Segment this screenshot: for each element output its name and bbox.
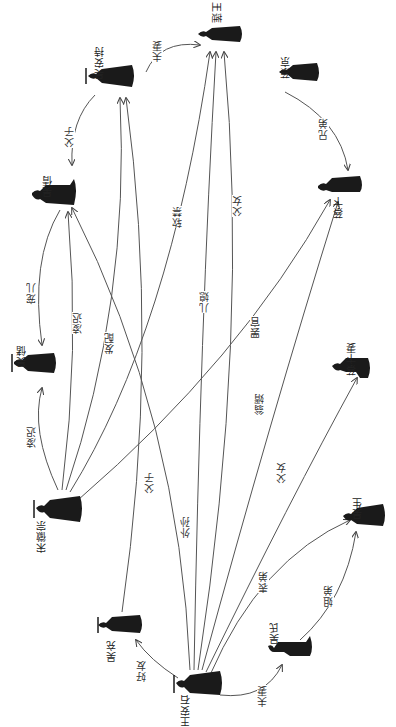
edge-label-fapei: 发配 (104, 332, 115, 354)
node-label-songhuizong: 宋徽宗 (36, 520, 47, 553)
edge-label-lingchi-1: 凌迟 (26, 426, 37, 448)
figure-wuchong (98, 615, 142, 633)
node-label-wuchong: 吴充 (106, 640, 117, 662)
edge-wuchong-wuanchi (122, 98, 142, 612)
edge-label-funv-bottom: 父女 (276, 462, 287, 484)
edge-label-chonger: 宠儿 (26, 282, 37, 304)
edge-songhuizong-wuxiu (62, 212, 73, 490)
figure-songhuizong (34, 496, 82, 522)
edge-wanganshi-wushi (220, 665, 282, 696)
edge-label-baguan: 罢官 (250, 316, 261, 338)
node-label-wushi: 吴氏 (269, 622, 280, 644)
edge-label-fuzi-top: 父子 (64, 126, 75, 148)
edge-songhuizong-wuanchi (66, 98, 121, 490)
edge-label-funv-top: 父女 (232, 195, 243, 217)
node-label-caibianqi: 蔡卞妻 (346, 342, 357, 375)
figure-caibian (318, 176, 362, 192)
node-label-wushu: 吴储 (16, 345, 27, 367)
edge-label-biaodi: 表弟 (258, 571, 269, 593)
figure-wuxiu (32, 179, 76, 205)
figure-wanglian (198, 26, 242, 42)
edge-label-jiedi: 姐弟 (323, 585, 334, 607)
edge-label-fuqi-bottom: 夫妻 (257, 685, 268, 707)
edge-label-haoyou: 好友 (136, 660, 147, 682)
node-label-wuxiu: 吴倩 (42, 175, 53, 197)
edge-wuanchi-wuxiu (72, 95, 95, 165)
node-label-wanganshi: 王安石 (180, 694, 191, 727)
edge-label-fuzi-bottom: 父子 (144, 472, 155, 494)
edge-label-lingchi-2: 凌迟 (72, 312, 83, 334)
edge-songhuizong-caibian (78, 200, 330, 500)
edge-label-wengxu: 翁婿 (254, 393, 265, 415)
edge-wanganshi-wuxiu (72, 208, 190, 670)
edge-label-ruanjin: 软禁 (172, 206, 183, 228)
edge-wanganshi-wanglian-erxi (194, 52, 216, 670)
edge-caijing-caibian (285, 92, 348, 170)
edge-label-erxi: 儿媳 (199, 291, 210, 313)
edge-wanganshi-caibianqi (206, 378, 357, 672)
edges (38, 44, 357, 695)
node-label-wusheng: 吴生 (352, 497, 363, 519)
node-label-caibian: 蔡卞 (333, 196, 344, 218)
edge-wuxiu-wushu (39, 210, 60, 345)
node-label-wanglian: 王莲 (211, 2, 222, 24)
edge-label-waisun: 外孙 (180, 516, 191, 538)
edge-wanganshi-caibian (202, 202, 338, 670)
edge-label-xiongdi: 兄弟 (318, 118, 329, 140)
edge-label-fuqi-top: 夫妻 (152, 40, 163, 62)
edge-songhuizong-wushu (38, 388, 58, 490)
node-label-wuanchi: 吴安持 (94, 46, 105, 79)
figure-wusheng (343, 504, 385, 526)
node-label-caijing: 蔡京 (280, 56, 291, 78)
figure-wanganshi (174, 671, 222, 695)
